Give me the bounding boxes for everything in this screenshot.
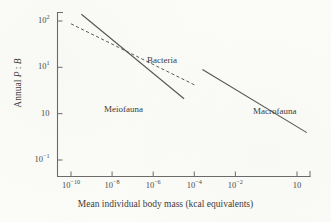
- y-tick-label: 101: [0, 62, 50, 71]
- y-axis-ticks: [58, 21, 63, 160]
- y-axis-title-p: P: [13, 72, 23, 78]
- y-tick-label: 102: [0, 16, 50, 25]
- series-line-macrofauna: [202, 69, 306, 132]
- y-axis-title-prefix: Annual: [13, 77, 23, 107]
- x-tick-label: 10−2: [215, 181, 255, 190]
- y-axis-title-sep: :: [13, 64, 23, 71]
- x-tick-label: 10−8: [92, 181, 132, 190]
- figure-container: 1021011010−1 10−1010−810−610−410−210 Ann…: [0, 0, 331, 222]
- x-tick-label: 10−10: [51, 181, 91, 190]
- x-tick-label: 10−4: [174, 181, 214, 190]
- y-axis-title: Annual P : B: [13, 28, 23, 138]
- y-tick-label: 10: [0, 109, 50, 118]
- y-tick-label: 10−1: [0, 155, 50, 164]
- axis-lines: [57, 12, 311, 177]
- x-axis-ticks: [71, 172, 297, 177]
- y-axis-title-b: B: [13, 58, 23, 64]
- series-label-macrofauna: Macrofauna: [253, 106, 296, 116]
- x-tick-label: 10−6: [133, 181, 173, 190]
- x-tick-label: 10: [277, 181, 317, 190]
- series-label-bacteria: Bacteria: [147, 55, 177, 65]
- x-axis-title: Mean individual body mass (kcal equivale…: [0, 199, 331, 209]
- series-label-meiofauna: Meiofauna: [104, 104, 143, 114]
